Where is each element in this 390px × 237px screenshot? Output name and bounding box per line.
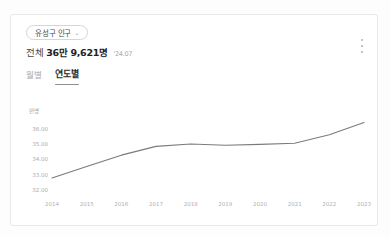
x-axis-tick: 2014 bbox=[45, 201, 59, 207]
summary-line: 전체 36만 9,621명 '24.07 bbox=[26, 45, 132, 59]
y-axis-tick: 36.00 bbox=[32, 126, 48, 132]
kebab-dot bbox=[361, 45, 363, 47]
x-axis-tick: 2017 bbox=[149, 201, 163, 207]
x-axis-tick: 2016 bbox=[114, 201, 128, 207]
y-axis-tick: 35.00 bbox=[32, 141, 48, 147]
x-axis-tick: 2022 bbox=[322, 201, 336, 207]
region-selector-chip[interactable]: 유성구 인구 ⌄ bbox=[26, 25, 88, 40]
y-axis-labels: 36.0035.0034.0033.0032.00 bbox=[26, 117, 48, 195]
y-axis-tick: 34.00 bbox=[32, 156, 48, 162]
region-selector-label: 유성구 인구 bbox=[35, 27, 71, 38]
kebab-dot bbox=[361, 39, 363, 41]
chart-canvas bbox=[52, 117, 364, 195]
period-tabs: 월별 연도별 bbox=[26, 67, 79, 85]
population-stat-card: 유성구 인구 ⌄ 전체 36만 9,621명 '24.07 월별 연도별 만명 … bbox=[10, 14, 378, 226]
y-axis-tick: 33.00 bbox=[32, 172, 48, 178]
y-axis-unit-label: 만명 bbox=[29, 107, 39, 115]
chevron-down-icon: ⌄ bbox=[74, 29, 79, 35]
y-axis-tick: 32.00 bbox=[32, 187, 48, 193]
x-axis-tick: 2020 bbox=[253, 201, 267, 207]
more-options-icon[interactable] bbox=[355, 37, 369, 55]
screen: 유성구 인구 ⌄ 전체 36만 9,621명 '24.07 월별 연도별 만명 … bbox=[0, 0, 390, 237]
x-axis-tick: 2021 bbox=[288, 201, 302, 207]
summary-date: '24.07 bbox=[113, 50, 132, 58]
x-axis-tick: 2015 bbox=[80, 201, 94, 207]
summary-prefix: 전체 bbox=[26, 47, 43, 58]
chart-svg bbox=[52, 117, 364, 195]
x-axis-tick: 2019 bbox=[218, 201, 232, 207]
kebab-dot bbox=[361, 51, 363, 53]
x-axis-tick: 2018 bbox=[184, 201, 198, 207]
line-chart: 36.0035.0034.0033.0032.00 20142015201620… bbox=[26, 117, 364, 217]
summary-value: 36만 9,621명 bbox=[46, 47, 108, 58]
tab-yearly[interactable]: 연도별 bbox=[55, 67, 78, 85]
series-line-population bbox=[52, 122, 364, 178]
x-axis-labels: 2014201520162017201820192020202120222023 bbox=[52, 201, 364, 213]
tab-monthly[interactable]: 월별 bbox=[26, 68, 41, 85]
x-axis-tick: 2023 bbox=[357, 201, 371, 207]
